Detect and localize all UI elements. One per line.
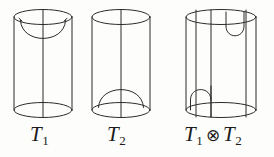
panel-labels: T1 T2 T1⊗T2 <box>0 118 274 157</box>
label-t2: T2 <box>107 124 126 147</box>
label-t1: T1 <box>30 124 49 147</box>
label-t1-sub: 1 <box>42 133 49 148</box>
cylinder-t3-bottom-cap <box>191 90 212 111</box>
label-tensor-base2: T <box>223 122 235 146</box>
cylinder-t1 <box>14 10 72 118</box>
label-tensor-sub2: 2 <box>235 133 242 148</box>
cylinder-t2 <box>92 10 150 118</box>
label-tensor-sub1: 1 <box>196 133 203 148</box>
label-t2-base: T <box>107 122 119 146</box>
label-t2-sub: 2 <box>119 133 126 148</box>
label-t1-tensor-t2: T1⊗T2 <box>184 124 242 147</box>
cylinder-t1-tensor-t2 <box>186 10 256 118</box>
label-tensor-base1: T <box>184 122 196 146</box>
tensor-product-icon: ⊗ <box>203 126 223 145</box>
tqft-cobordism-figure: T1 T2 T1⊗T2 <box>0 0 274 157</box>
label-t1-base: T <box>30 122 42 146</box>
